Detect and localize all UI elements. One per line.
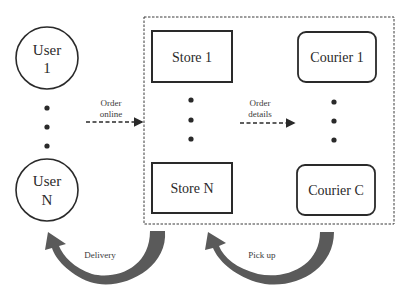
order-details-edge: Order details [240, 98, 294, 123]
order-details-label-line1: Order [250, 98, 271, 108]
store-n-node: Store N [152, 163, 232, 213]
delivery-label: Delivery [84, 250, 116, 260]
courier-1-node: Courier 1 [298, 32, 376, 82]
user-n-label-line2: N [42, 192, 53, 208]
user-n-label-line1: User [33, 173, 61, 189]
pick-up-label: Pick up [248, 250, 276, 260]
order-details-label-line2: details [248, 109, 272, 119]
user-n-node: User N [16, 159, 78, 221]
store-n-label: Store N [170, 181, 213, 196]
user-1-node: User 1 [16, 27, 78, 89]
delivery-edge: Delivery [45, 231, 165, 284]
courier-ellipsis-dots [331, 99, 336, 142]
store-1-label: Store 1 [172, 50, 212, 65]
diagram-canvas: User 1 User N Order online Store 1 Store… [0, 0, 406, 292]
order-online-edge: Order online [86, 98, 142, 122]
user-1-label-line1: User [33, 42, 61, 58]
store-1-node: Store 1 [152, 31, 232, 82]
courier-1-label: Courier 1 [310, 50, 363, 65]
order-online-label-line2: online [100, 109, 123, 119]
courier-c-label: Courier C [308, 183, 364, 198]
user-1-label-line2: 1 [43, 60, 51, 76]
order-online-label-line1: Order [101, 98, 122, 108]
courier-c-node: Courier C [297, 165, 375, 215]
store-ellipsis-dots [188, 97, 193, 141]
pick-up-edge: Pick up [205, 232, 334, 285]
user-ellipsis-dots [44, 105, 49, 148]
